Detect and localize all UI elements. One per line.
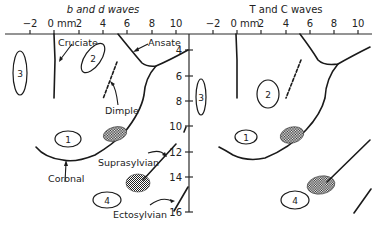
region-2-label: 2 [90, 54, 96, 64]
ectosylvian-pointer [150, 199, 172, 205]
right-x-tick-label: 10 [352, 18, 365, 29]
suprasylvian-pointer [148, 151, 165, 155]
region-1-label: 1 [65, 135, 71, 145]
right-x-tick-label: 4 [283, 18, 289, 29]
left-x-tick-label: 8 [149, 18, 155, 29]
cruciate-sulcus [54, 34, 55, 98]
dimple-pointer [112, 83, 118, 105]
right-region-4-label: 4 [292, 196, 298, 206]
right-region-1-label: 1 [243, 133, 249, 143]
right-region-3-label: 3 [198, 93, 204, 103]
coronal-label: Coronal [48, 173, 84, 184]
left-panel-title: b and d waves [67, 4, 140, 15]
right-ectosylvian-sulcus [354, 189, 371, 213]
right-panel: T and C waves −2 0 mm 2 4 6 8 10 3 2 [189, 4, 372, 213]
left-x-tick-label: 2 [76, 18, 82, 29]
left-panel: b and d waves −2 0 mm 2 4 6 8 10 [5, 4, 193, 220]
right-hatched-focus-upper [278, 124, 305, 146]
cortex-map-diagram: b and d waves −2 0 mm 2 4 6 8 10 [0, 0, 379, 229]
suprasylvian-label: Suprasylvian [98, 157, 159, 168]
y-tick-label: 14 [169, 172, 182, 183]
left-x-tick-label: 6 [124, 18, 130, 29]
right-x-tick-label: 8 [331, 18, 337, 29]
y-tick-label: 6 [176, 71, 182, 82]
y-tick-label: 8 [176, 96, 182, 107]
left-x-tick-label: 4 [100, 18, 106, 29]
right-x-tick-label: 2 [258, 18, 264, 29]
right-suprasylvian-sulcus [327, 140, 370, 182]
left-x-tick-label: 0 mm [47, 18, 76, 29]
cruciate-label: Cruciate [58, 37, 98, 48]
arrowhead-icon [170, 199, 175, 203]
right-x-tick-label: 6 [307, 18, 313, 29]
right-x-tick-label: −2 [206, 18, 221, 29]
region-3-label: 3 [17, 69, 23, 79]
y-tick-label: 10 [169, 121, 182, 132]
arrowhead-icon [133, 47, 139, 52]
hatched-focus-upper [102, 124, 129, 144]
right-ansate-sulcus [300, 34, 370, 65]
right-region-2-label: 2 [265, 90, 271, 100]
right-cruciate-sulcus [236, 34, 237, 98]
right-panel-title: T and C waves [248, 4, 322, 15]
sulcus-fragment [184, 127, 186, 132]
ansate-label: Ansate [148, 37, 181, 48]
region-4-label: 4 [104, 196, 110, 206]
arrowhead-icon [110, 81, 115, 86]
dimple-label: Dimple [105, 105, 139, 116]
right-x-tick-label: 0 mm [230, 18, 259, 29]
left-x-tick-label: −2 [23, 18, 38, 29]
right-dimple [286, 60, 301, 98]
dimple [103, 62, 117, 99]
left-x-tick-label: 10 [170, 18, 183, 29]
ectosylvian-label: Ectosylvian [113, 209, 167, 220]
